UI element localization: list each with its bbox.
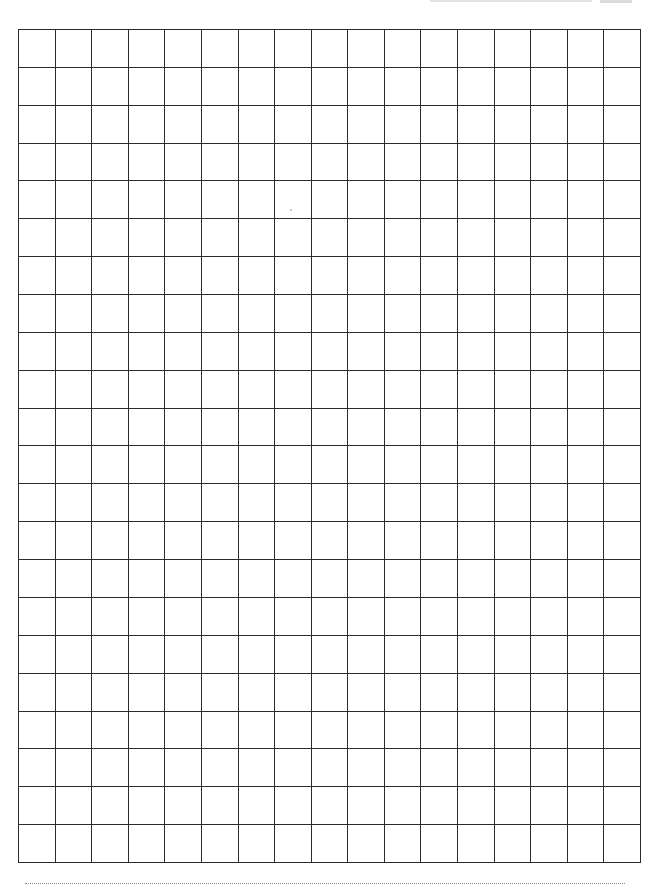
grid-cell <box>494 67 531 105</box>
grid-cell <box>530 445 567 483</box>
grid-cell <box>55 445 92 483</box>
grid-cell <box>530 105 567 143</box>
grid-cell <box>274 105 311 143</box>
grid-cell <box>128 521 165 559</box>
grid-cell <box>603 748 640 786</box>
grid-cell <box>494 521 531 559</box>
grid-cell <box>201 105 238 143</box>
grid-cell <box>274 143 311 181</box>
grid-cell <box>420 673 457 711</box>
grid-cell <box>164 143 201 181</box>
grid-cell <box>55 597 92 635</box>
grid-cell <box>384 143 421 181</box>
grid-cell <box>603 332 640 370</box>
grid-cell <box>530 521 567 559</box>
dotted-footer-rule <box>25 883 625 884</box>
grid-cell <box>530 483 567 521</box>
grid-cell <box>55 824 92 862</box>
grid-cell <box>311 408 348 446</box>
grid-cell <box>164 445 201 483</box>
grid-cell <box>494 143 531 181</box>
grid-cell <box>238 218 275 256</box>
grid-cell <box>311 143 348 181</box>
grid-cell <box>603 521 640 559</box>
grid-cell <box>567 673 604 711</box>
grid-cell <box>384 370 421 408</box>
grid-cell <box>274 218 311 256</box>
grid-cell <box>530 408 567 446</box>
grid-cell <box>457 483 494 521</box>
grid-cell <box>494 711 531 749</box>
grid-cell <box>311 218 348 256</box>
grid-cell <box>164 711 201 749</box>
grid-cell <box>311 370 348 408</box>
grid-cell <box>311 67 348 105</box>
grid-cell <box>238 408 275 446</box>
grid-cell <box>603 218 640 256</box>
grid-cell <box>347 786 384 824</box>
grid-cell <box>55 521 92 559</box>
grid-cell <box>347 67 384 105</box>
grid-cell <box>311 483 348 521</box>
grid-cell <box>420 786 457 824</box>
grid-cell <box>55 711 92 749</box>
grid-cell <box>384 748 421 786</box>
grid-cell <box>494 673 531 711</box>
grid-cell <box>311 748 348 786</box>
grid-cell <box>347 408 384 446</box>
grid-cell <box>457 786 494 824</box>
grid-cell <box>420 218 457 256</box>
grid-cell <box>530 748 567 786</box>
scan-artifact-line <box>430 0 592 2</box>
grid-cell <box>420 824 457 862</box>
grid-cell <box>311 29 348 67</box>
grid-cell <box>347 180 384 218</box>
grid-cell <box>128 105 165 143</box>
grid-cell <box>274 483 311 521</box>
grid-cell <box>128 29 165 67</box>
grid-cell <box>420 143 457 181</box>
grid-cell <box>347 256 384 294</box>
grid-cell <box>201 29 238 67</box>
grid-cell <box>18 332 55 370</box>
grid-cell <box>91 445 128 483</box>
grid-cell <box>164 218 201 256</box>
grid-cell <box>18 294 55 332</box>
grid-cell <box>603 597 640 635</box>
grid-cell <box>567 67 604 105</box>
grid-cell <box>18 597 55 635</box>
grid-cell <box>274 370 311 408</box>
grid-cell <box>201 218 238 256</box>
grid-cell <box>201 294 238 332</box>
grid-cell <box>384 445 421 483</box>
grid-cell <box>530 711 567 749</box>
grid-cell <box>55 29 92 67</box>
grid-cell <box>603 559 640 597</box>
grid-cell <box>55 67 92 105</box>
grid-cell <box>567 597 604 635</box>
grid-cell <box>530 597 567 635</box>
grid-cell <box>274 29 311 67</box>
grid-cell <box>420 105 457 143</box>
grid-cell <box>128 824 165 862</box>
grid-cell <box>567 521 604 559</box>
grid-cell <box>530 143 567 181</box>
grid-cell <box>311 332 348 370</box>
grid-cell <box>55 370 92 408</box>
grid-cell <box>91 143 128 181</box>
grid-cell <box>530 559 567 597</box>
grid-cell <box>567 180 604 218</box>
grid-cell <box>128 748 165 786</box>
grid-cell <box>238 748 275 786</box>
grid-cell <box>274 673 311 711</box>
grid-cell <box>567 445 604 483</box>
grid-cell <box>420 180 457 218</box>
grid-cell <box>567 29 604 67</box>
grid-cell <box>347 635 384 673</box>
grid-cell <box>420 332 457 370</box>
grid-cell <box>164 294 201 332</box>
grid-cell <box>347 445 384 483</box>
grid-cell <box>18 105 55 143</box>
grid-cell <box>91 29 128 67</box>
grid-cell <box>347 748 384 786</box>
